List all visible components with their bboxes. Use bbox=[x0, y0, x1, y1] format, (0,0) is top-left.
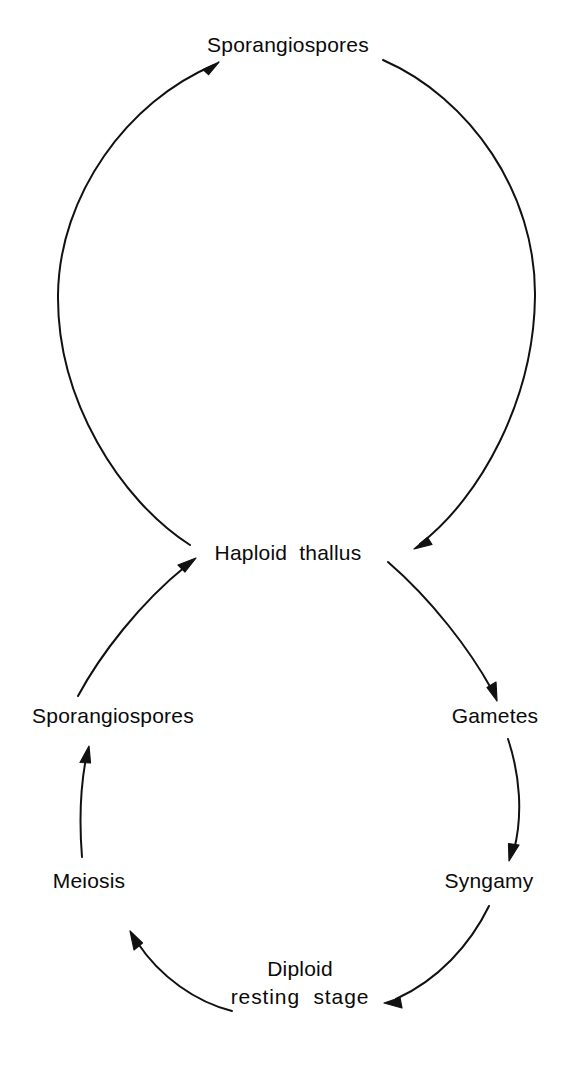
node-label-sporangiospores-lower: Sporangiospores bbox=[32, 703, 194, 730]
edge-path bbox=[78, 566, 186, 696]
edge-path bbox=[80, 758, 86, 857]
arrowhead bbox=[384, 998, 402, 1009]
arrowhead bbox=[509, 844, 520, 862]
node-label-sporangiospores-top: Sporangiospores bbox=[207, 32, 369, 59]
arrowhead bbox=[80, 746, 91, 763]
edge-haploid-to-sporangiospores-top bbox=[58, 62, 219, 545]
edge-sporangiospores-lower-to-haploid bbox=[78, 558, 196, 696]
node-label-gametes: Gametes bbox=[452, 703, 539, 730]
edge-path bbox=[58, 65, 214, 545]
arrowhead bbox=[203, 62, 219, 75]
edge-path bbox=[383, 60, 535, 544]
edge-syngamy-to-diploid bbox=[384, 906, 489, 1008]
edge-diploid-to-meiosis bbox=[130, 931, 232, 1011]
edge-gametes-to-syngamy bbox=[508, 739, 519, 861]
edge-sporangiospores-top-to-haploid bbox=[383, 60, 535, 549]
edge-path bbox=[137, 942, 232, 1011]
edge-haploid-to-gametes bbox=[388, 562, 497, 701]
edge-path bbox=[388, 562, 492, 690]
edge-path bbox=[508, 739, 519, 850]
node-label-diploid-resting-stage-line2: resting stage bbox=[231, 984, 370, 1011]
cycle-arrows-svg bbox=[0, 0, 575, 1066]
edge-meiosis-to-sporangiospores-lower bbox=[80, 746, 91, 857]
life-cycle-diagram: Sporangiospores Haploid thallus Sporangi… bbox=[0, 0, 575, 1066]
edge-path bbox=[396, 906, 489, 999]
node-label-meiosis: Meiosis bbox=[53, 868, 126, 895]
node-label-haploid-thallus: Haploid thallus bbox=[215, 540, 362, 567]
node-label-syngamy: Syngamy bbox=[445, 868, 534, 895]
arrowhead bbox=[414, 538, 432, 550]
node-label-diploid-resting-stage-line1: Diploid bbox=[267, 956, 333, 983]
